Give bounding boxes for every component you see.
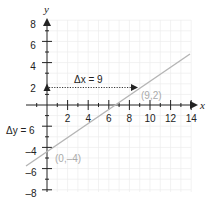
y-axis [42,22,52,192]
y-tick-label: –6 [25,167,37,178]
y-tick-label: 4 [30,61,36,72]
y-tick-label: –8 [25,188,37,199]
y-tick-label: –4 [25,146,37,157]
point-label-9-2: (9,2) [141,90,162,101]
delta-x-label: Δx = 9 [74,74,103,85]
x-tick-label: 14 [186,113,198,124]
x-tick-labels: 2 4 6 8 10 12 14 [65,113,197,124]
y-tick-label: 6 [30,40,36,51]
x-axis-arrow-icon [190,101,198,109]
delta-y-label: Δy = 6 [6,125,35,136]
y-axis-label: y [43,3,49,15]
point-label-0-neg4: (0,–4) [55,153,81,164]
y-tick-label: 8 [30,19,36,30]
x-tick-label: 12 [165,113,177,124]
y-axis-arrow-icon [43,18,51,26]
data-line [26,54,190,166]
y-tick-label: 2 [30,83,36,94]
x-tick-label: 8 [127,113,133,124]
graph: x y 2 4 6 8 10 12 14 8 6 4 2 –4 –6 –8 Δx… [0,0,208,203]
x-tick-label: 10 [144,113,156,124]
x-axis-label: x [199,99,205,111]
x-tick-label: 2 [65,113,71,124]
y-tick-labels: 8 6 4 2 –4 –6 –8 [25,19,37,199]
x-tick-label: 6 [106,113,112,124]
